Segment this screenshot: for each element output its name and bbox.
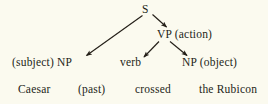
node-vp-action: VP (action): [157, 29, 212, 41]
edge-vp-to-verb: [144, 42, 159, 58]
word-caesar: Caesar: [18, 84, 51, 96]
word-crossed: crossed: [135, 84, 171, 96]
word-the-rubicon: the Rubicon: [199, 84, 257, 96]
edge-s-to-np-subject: [87, 16, 143, 56]
edge-s-to-vp: [153, 15, 167, 28]
edge-vp-to-np-object: [170, 42, 187, 56]
node-np-object: NP (object): [182, 57, 237, 69]
node-np-subject: (subject) NP: [12, 57, 72, 69]
node-s: S: [142, 4, 148, 16]
syntax-tree-diagram: S VP (action) (subject) NP verb NP (obje…: [0, 0, 268, 104]
word-past: (past): [78, 84, 105, 96]
node-verb: verb: [120, 57, 141, 69]
